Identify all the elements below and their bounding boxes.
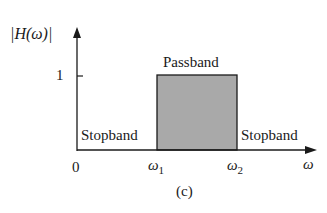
x-axis-label: ω [303,157,314,172]
x-origin-label: 0 [72,160,80,175]
stopband-right-label: Stopband [241,128,298,143]
omega1-symbol: ω [148,157,159,173]
y-axis-label: |H(ω)| [10,26,52,42]
passband-region [157,75,237,150]
figure-caption: (c) [176,184,193,199]
omega2-symbol: ω [227,157,238,173]
bandpass-filter-figure: |H(ω)| 1 Passband Stopband Stopband 0 ω1… [0,0,327,213]
omega2-label: ω2 [227,158,243,176]
x-axis-arrow-icon [305,146,317,154]
y-tick-label-1: 1 [56,68,64,83]
omega2-subscript: 2 [238,164,244,176]
y-axis-arrow-icon [73,27,81,38]
stopband-left-label: Stopband [81,128,138,143]
passband-label: Passband [163,55,219,70]
omega1-label: ω1 [148,158,164,176]
omega1-subscript: 1 [159,164,165,176]
